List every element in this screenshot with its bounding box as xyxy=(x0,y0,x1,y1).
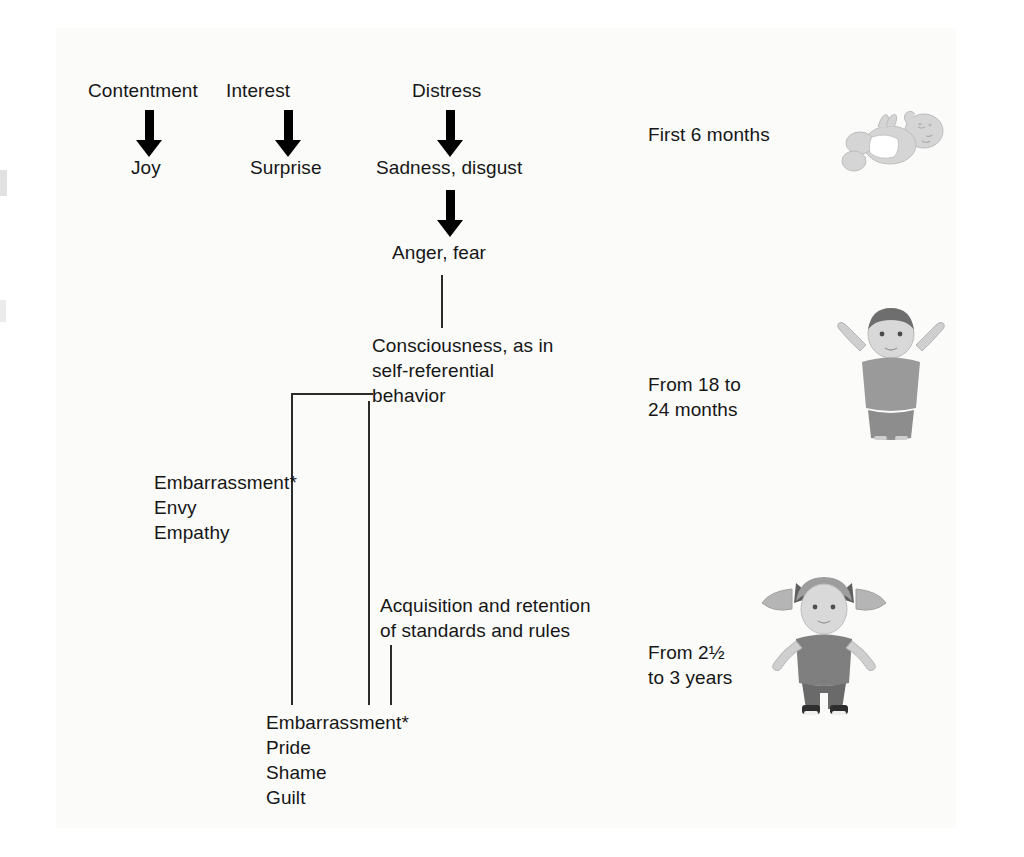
node-consciousness: Consciousness, as in self-referential be… xyxy=(372,333,554,408)
arrow-sadness-to-anger xyxy=(437,190,463,237)
stage2-emotions-list: Embarrassment* Envy Empathy xyxy=(154,470,297,545)
girl-pigtails-illustration xyxy=(752,553,900,718)
arrow-interest-to-surprise xyxy=(275,110,301,157)
page-edge-artifact-secondary xyxy=(0,300,6,322)
page-edge-artifact xyxy=(0,170,7,196)
toddler-arms-raised-illustration xyxy=(832,300,950,440)
arrow-contentment-to-joy xyxy=(136,110,162,157)
emotion-surprise: Surprise xyxy=(250,155,322,180)
stage3-emotions-list: Embarrassment* Pride Shame Guilt xyxy=(266,710,409,810)
arrow-distress-to-sadness xyxy=(437,110,463,157)
precursor-contentment: Contentment xyxy=(88,78,198,103)
emotion-anger-fear: Anger, fear xyxy=(392,240,486,265)
connector-consciousness-to-stage3-emotions xyxy=(368,401,370,705)
precursor-interest: Interest xyxy=(226,78,290,103)
precursor-distress: Distress xyxy=(412,78,481,103)
connector-standards-to-stage3-emotions xyxy=(390,645,392,705)
age-label-2-5-to-3-years: From 2½ to 3 years xyxy=(648,640,732,690)
connector-consciousness-branch-horizontal xyxy=(291,393,373,395)
emotion-joy: Joy xyxy=(131,155,161,180)
connector-branch-left-vertical xyxy=(291,393,293,705)
age-label-18-to-24-months: From 18 to 24 months xyxy=(648,372,741,422)
emotion-sadness-disgust: Sadness, disgust xyxy=(376,155,522,180)
baby-lying-illustration xyxy=(838,103,950,179)
age-label-first-6-months: First 6 months xyxy=(648,122,770,147)
node-acquisition-standards: Acquisition and retention of standards a… xyxy=(380,593,591,643)
connector-anger-to-consciousness xyxy=(441,275,443,328)
diagram-canvas: Contentment Interest Distress Joy Surpri… xyxy=(0,0,1024,857)
